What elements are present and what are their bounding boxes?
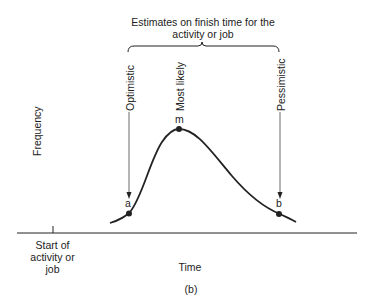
point-b-marker [276, 211, 282, 217]
point-a-label: a [125, 197, 131, 209]
title-line-2: activity or job [108, 28, 298, 40]
figure-caption: (b) [176, 283, 206, 295]
point-b-label: b [276, 197, 282, 209]
point-m-marker [176, 126, 182, 132]
time-axis-label: Time [170, 261, 210, 273]
start-label-line-2: activity or [20, 251, 85, 263]
optimistic-label: Optimistic [124, 65, 136, 111]
point-m-label: m [175, 113, 184, 125]
start-label-line-3: job [20, 263, 85, 275]
estimates-brace [128, 42, 279, 52]
most-likely-label: Most likely [174, 62, 186, 111]
point-a-marker [126, 211, 132, 217]
beta-distribution-curve [110, 129, 296, 223]
title-line-1: Estimates on finish time for the [108, 16, 298, 28]
pessimistic-label: Pessimistic [275, 58, 287, 111]
start-label-line-1: Start of [20, 239, 85, 251]
frequency-axis-label: Frequency [31, 106, 43, 156]
